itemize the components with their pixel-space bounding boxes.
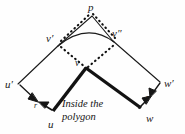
label-w-prime: w′ [164,78,174,89]
caption-line-1: Inside the [62,98,126,111]
dotted-vprime-v [61,47,85,67]
label-p: p [88,2,94,13]
label-v: v [75,58,79,68]
label-v-prime: v′ [46,33,53,44]
figure-caption: Inside the polygon [62,98,126,124]
label-u-prime: u′ [5,79,13,90]
polygon-figure: p v′ v″ v u′ u w′ w r r Inside the polyg… [0,0,185,134]
arc-vprime-vdprime [58,33,114,46]
dotted-v-vdprime [88,45,114,67]
edge-vdprime-wprime [113,41,160,82]
label-r-right: r [146,94,149,102]
label-w: w [146,113,153,124]
label-r-left: r [34,102,37,110]
dotted-vprime-p [61,13,91,41]
caption-line-2: polygon [62,111,126,124]
edge-vprime-p-vdprime [60,16,113,44]
edge-uprime-vprime [18,44,60,84]
label-v-double-prime: v″ [112,28,121,39]
vertex-dot-v [84,66,87,69]
label-u: u [48,119,54,130]
